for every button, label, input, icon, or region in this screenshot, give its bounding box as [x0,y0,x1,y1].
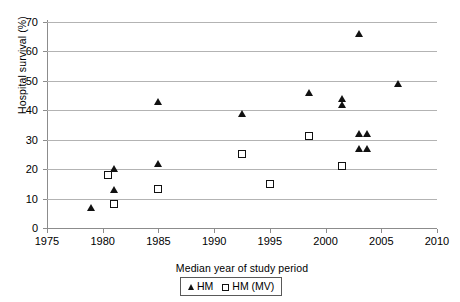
data-point-hm [355,30,363,37]
y-tick-label: 10 [4,194,38,205]
plot-area [47,22,437,228]
data-point-hm-mv [110,200,118,208]
y-tick-mark [43,199,47,200]
x-tick-mark [437,229,438,233]
x-tick-mark [214,229,215,233]
y-tick-mark [43,22,47,23]
gridline-y [47,81,437,82]
chart-legend: HM HM (MV) [180,277,282,296]
y-tick-mark [43,51,47,52]
x-tick-label: 1980 [80,236,126,247]
x-tick-label: 2000 [303,236,349,247]
data-point-hm [338,95,346,102]
x-tick-mark [381,229,382,233]
y-tick-mark [43,169,47,170]
x-tick-mark [47,229,48,233]
x-tick-label: 1990 [191,236,237,247]
x-tick-label: 2010 [414,236,460,247]
x-tick-mark [270,229,271,233]
y-axis-title: Hospital survival (%) [14,0,30,190]
y-tick-mark [43,81,47,82]
data-point-hm [363,145,371,152]
data-point-hm [154,160,162,167]
y-tick-label: 40 [4,105,38,116]
x-tick-mark [158,229,159,233]
y-tick-mark [43,140,47,141]
gridline-y [47,140,437,141]
data-point-hm [87,204,95,211]
gridline-y [47,110,437,111]
y-tick-label: 60 [4,46,38,57]
gridline-y [47,22,437,23]
data-point-hm [305,89,313,96]
y-tick-label: 50 [4,76,38,87]
open-square-icon [222,284,229,291]
data-point-hm [338,101,346,108]
y-tick-mark [43,110,47,111]
data-point-hm [363,130,371,137]
y-tick-label: 70 [4,17,38,28]
x-tick-label: 2005 [358,236,404,247]
x-tick-mark [103,229,104,233]
data-point-hm-mv [266,180,274,188]
x-axis-line [47,228,437,229]
data-point-hm-mv [104,171,112,179]
filled-triangle-icon [188,284,194,290]
x-tick-label: 1985 [135,236,181,247]
legend-entry-hm: HM [188,280,213,292]
data-point-hm [355,130,363,137]
data-point-hm-mv [238,150,246,158]
gridline-y [47,169,437,170]
data-point-hm [355,145,363,152]
x-tick-label: 1995 [247,236,293,247]
x-tick-mark [326,229,327,233]
legend-label-hm-mv: HM (MV) [232,280,274,292]
legend-entry-hm-mv: HM (MV) [222,280,274,292]
y-tick-label: 0 [4,223,38,234]
gridline-y [47,199,437,200]
y-tick-label: 20 [4,164,38,175]
gridline-y [47,51,437,52]
data-point-hm [154,98,162,105]
x-tick-label: 1975 [24,236,70,247]
x-axis-title: Median year of study period [47,262,437,274]
legend-label-hm: HM [197,280,213,292]
scatter-chart: Hospital survival (%) Median year of stu… [0,0,460,302]
data-point-hm [110,186,118,193]
y-tick-label: 30 [4,135,38,146]
data-point-hm-mv [154,185,162,193]
